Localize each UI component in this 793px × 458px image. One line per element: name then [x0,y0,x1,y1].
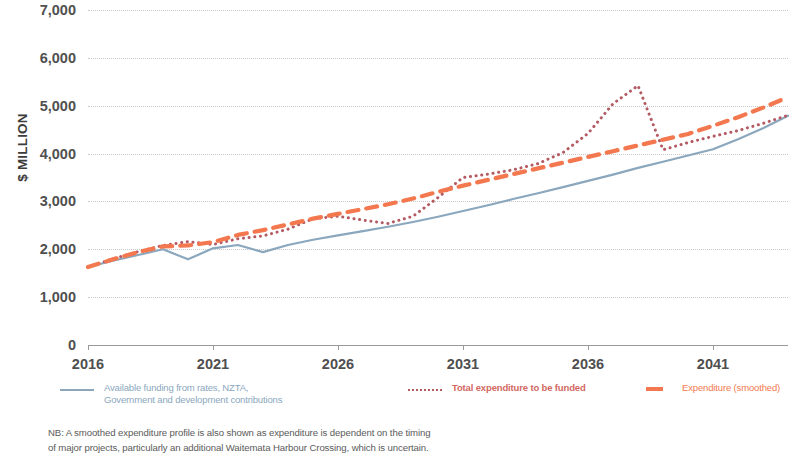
chart-legend: Available funding from rates, NZTA, Gove… [60,380,793,414]
series-layer [88,10,788,345]
chart-footnote: NB: A smoothed expenditure profile is al… [48,426,648,455]
y-axis-tick-label: 5,000 [40,98,76,114]
x-axis-tick-label: 2021 [197,356,229,372]
x-axis-tick [213,345,214,350]
y-axis-tick-label: 2,000 [40,241,76,257]
legend-dotted-line-icon [408,385,442,395]
footnote-line-2: of major projects, particularly an addit… [48,441,648,456]
x-axis-tick-label: 2036 [572,356,604,372]
footnote-line-1: NB: A smoothed expenditure profile is al… [48,426,648,441]
y-axis-tick-label: 6,000 [40,50,76,66]
x-axis-tick [463,345,464,350]
x-axis-tick [88,345,89,350]
x-axis-tick [338,345,339,350]
x-axis-tick-label: 2016 [72,356,104,372]
legend-label-total-expenditure: Total expenditure to be funded [452,382,586,394]
x-axis-tick-label: 2031 [447,356,479,372]
plot-area: 7,0006,0005,0004,0003,0002,0001,00002016… [88,10,788,345]
legend-item-total-expenditure: Total expenditure to be funded [408,382,668,395]
legend-label-expenditure-smoothed: Expenditure (smoothed) [682,382,780,394]
x-axis-tick-label: 2041 [697,356,729,372]
legend-item-expenditure-smoothed: Expenditure (smoothed) [638,382,793,395]
legend-item-available-funding: Available funding from rates, NZTA, Gove… [60,382,310,406]
y-axis-title: $ MILLION [15,88,30,208]
y-axis-tick-label: 4,000 [40,146,76,162]
expenditure-funding-chart: $ MILLION 7,0006,0005,0004,0003,0002,000… [0,0,793,458]
y-axis-tick-label: 1,000 [40,289,76,305]
y-axis-tick-label: 7,000 [40,2,76,18]
y-axis-tick-label: 3,000 [40,193,76,209]
x-axis-line [88,345,788,346]
legend-label-line1: Available funding from rates, NZTA, [104,382,248,393]
legend-label-available-funding: Available funding from rates, NZTA, Gove… [104,382,282,406]
legend-label-line2: Government and development contributions [104,394,282,405]
x-axis-tick-label: 2026 [322,356,354,372]
x-axis-tick [588,345,589,350]
y-axis-tick-label: 0 [68,337,76,353]
series-line-1 [88,86,788,267]
x-axis-tick [713,345,714,350]
legend-dashed-line-icon [638,385,672,395]
legend-solid-line-icon [60,385,94,395]
